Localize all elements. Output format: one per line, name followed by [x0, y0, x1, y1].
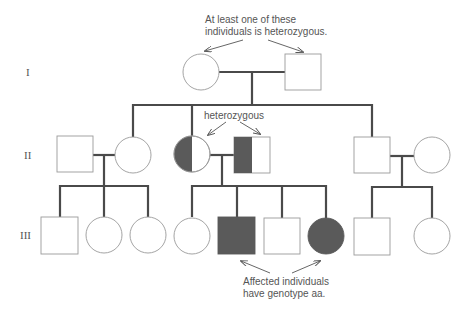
- individual-III-8-male: [354, 218, 390, 255]
- annotation-bottom-line2: have genotype aa.: [243, 288, 325, 299]
- arrow-to-II-3: [208, 122, 226, 135]
- annotation-top-line2: individuals is heterozygous.: [205, 26, 327, 37]
- individual-III-2-female: [86, 217, 122, 253]
- generation-label-II: II: [24, 149, 32, 161]
- arrow-to-II-4: [240, 122, 260, 134]
- individual-I-2-male: [285, 54, 321, 90]
- individual-III-5-male-affected: [218, 217, 255, 254]
- pedigree-chart: I II III At least one of these individua…: [0, 0, 475, 317]
- annotation-top-line1: At least one of these: [205, 14, 297, 25]
- annotation-heterozygous: heterozygous: [204, 110, 264, 121]
- arrow-to-I-1: [205, 40, 243, 51]
- individual-III-6-male: [264, 218, 300, 254]
- arrow-to-III-5: [241, 261, 270, 273]
- individual-II-5-male: [354, 137, 390, 173]
- individual-I-1-female: [183, 54, 219, 90]
- arrow-to-I-2: [268, 40, 303, 52]
- individual-III-7-female-affected: [308, 218, 344, 254]
- individual-II-3-female-carrier: [174, 136, 210, 172]
- annotation-bottom-line1: Affected individuals: [243, 276, 329, 287]
- individual-II-4-male-carrier: [234, 137, 270, 173]
- individual-III-4-female: [174, 218, 210, 254]
- arrow-to-III-7: [292, 261, 320, 273]
- individual-II-6-female: [414, 137, 450, 173]
- individual-III-9-female: [414, 218, 450, 254]
- individual-III-3-female: [130, 217, 166, 253]
- generation-label-III: III: [20, 229, 31, 241]
- generation-label-I: I: [26, 66, 30, 78]
- individual-III-1-male: [41, 217, 78, 254]
- individual-II-2-female: [115, 137, 151, 173]
- individual-II-1-male: [57, 136, 93, 172]
